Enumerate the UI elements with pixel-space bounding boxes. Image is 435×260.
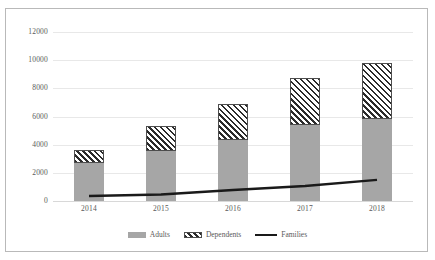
gray-square-swatch-icon [128, 232, 146, 238]
y-tick-label: 4000 [4, 141, 48, 149]
chart-legend: AdultsDependentsFamilies [6, 231, 429, 239]
x-axis-tick-labels: 20142015201620172018 [53, 205, 413, 219]
y-tick-label: 6000 [4, 113, 48, 121]
y-tick-label: 10000 [4, 56, 48, 64]
y-tick-label: 12000 [4, 28, 48, 36]
x-tick-label-2015: 2015 [134, 205, 188, 213]
y-axis-tick-labels: 020004000600080001000012000 [6, 32, 48, 201]
x-tick-label-2014: 2014 [62, 205, 116, 213]
families-polyline [89, 180, 377, 196]
x-tick-label-2018: 2018 [350, 205, 404, 213]
legend-item-families[interactable]: Families [255, 231, 307, 239]
legend-item-dependents[interactable]: Dependents [184, 231, 241, 239]
plot-area [53, 32, 413, 201]
hatched-square-swatch-icon [184, 232, 202, 238]
legend-label: Dependents [206, 231, 241, 239]
legend-label: Adults [150, 231, 170, 239]
y-tick-label: 0 [4, 197, 48, 205]
families-line-series [53, 32, 413, 201]
chart-frame: 020004000600080001000012000 201420152016… [5, 8, 428, 252]
legend-label: Families [281, 231, 307, 239]
y-tick-label: 8000 [4, 84, 48, 92]
gridline-0 [53, 201, 413, 202]
black-line-swatch-icon [255, 234, 277, 236]
y-tick-label: 2000 [4, 169, 48, 177]
x-tick-label-2016: 2016 [206, 205, 260, 213]
x-tick-label-2017: 2017 [278, 205, 332, 213]
legend-item-adults[interactable]: Adults [128, 231, 170, 239]
